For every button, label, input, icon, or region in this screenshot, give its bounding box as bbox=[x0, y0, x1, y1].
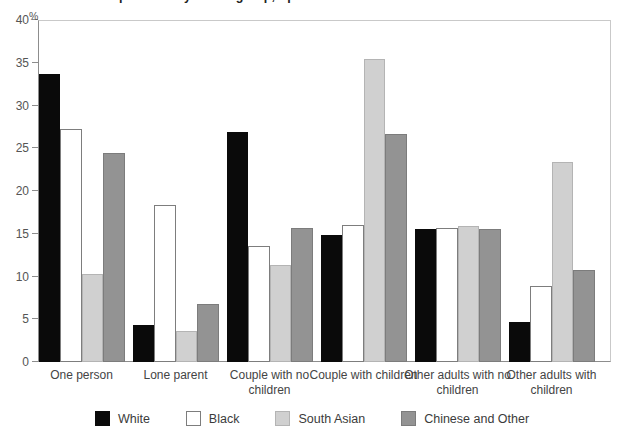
y-axis-tick: 5 bbox=[0, 312, 38, 326]
y-axis-tick-label: 10 bbox=[16, 270, 29, 284]
bar bbox=[197, 304, 219, 362]
y-axis-tick: 0 bbox=[0, 355, 38, 369]
legend-item: Chinese and Other bbox=[401, 411, 529, 426]
bar bbox=[103, 153, 125, 362]
y-axis-tick-label: 20 bbox=[16, 184, 29, 198]
legend-item: South Asian bbox=[275, 411, 365, 426]
legend-item: Black bbox=[186, 411, 240, 426]
legend-label: Chinese and Other bbox=[424, 412, 529, 426]
y-axis-tick-label: 25 bbox=[16, 141, 29, 155]
bar bbox=[60, 129, 82, 362]
legend-label: South Asian bbox=[298, 412, 365, 426]
bars-layer bbox=[38, 20, 611, 362]
legend-swatch-icon bbox=[401, 411, 416, 426]
y-axis-tick-label: 15 bbox=[16, 227, 29, 241]
bar bbox=[176, 331, 198, 362]
y-axis-tick-label: 30 bbox=[16, 99, 29, 113]
bar bbox=[133, 325, 155, 362]
bar bbox=[509, 322, 531, 362]
legend-label: White bbox=[118, 412, 150, 426]
bar bbox=[82, 274, 104, 362]
y-axis-tick: 15 bbox=[0, 227, 38, 241]
bar bbox=[39, 74, 61, 362]
bar bbox=[552, 162, 574, 362]
y-axis-tick: 20 bbox=[0, 184, 38, 198]
y-axis-tick-label: 5 bbox=[22, 312, 29, 326]
y-axis-tick-label: 40 bbox=[16, 13, 29, 27]
y-axis-tick: 35 bbox=[0, 56, 38, 70]
bar bbox=[364, 59, 386, 362]
bar bbox=[154, 205, 176, 362]
bar bbox=[479, 229, 501, 362]
y-axis-tick-label: 35 bbox=[16, 56, 29, 70]
x-axis-group-label: Other adults with children bbox=[492, 368, 612, 397]
legend-swatch-icon bbox=[275, 411, 290, 426]
bar bbox=[291, 228, 313, 362]
legend-swatch-icon bbox=[186, 411, 201, 426]
bar bbox=[415, 229, 437, 362]
legend-item: White bbox=[95, 411, 150, 426]
chart-legend: WhiteBlackSouth AsianChinese and Other bbox=[0, 411, 624, 426]
bar bbox=[458, 226, 480, 362]
bar-chart: Household composition: by ethnic group, … bbox=[0, 0, 624, 443]
bar bbox=[227, 132, 249, 362]
bar bbox=[342, 225, 364, 362]
bar bbox=[530, 286, 552, 362]
y-axis-tick: 30 bbox=[0, 99, 38, 113]
chart-title: Household composition: by ethnic group, … bbox=[24, 0, 339, 3]
bar bbox=[270, 265, 292, 362]
bar bbox=[385, 134, 407, 362]
y-axis-unit-label: % bbox=[29, 10, 38, 22]
legend-swatch-icon bbox=[95, 411, 110, 426]
bar bbox=[248, 246, 270, 362]
legend-label: Black bbox=[209, 412, 240, 426]
y-axis-tick: 10 bbox=[0, 270, 38, 284]
bar bbox=[321, 235, 343, 362]
bar bbox=[436, 228, 458, 362]
bar bbox=[573, 270, 595, 362]
y-axis-tick-label: 0 bbox=[22, 355, 29, 369]
y-axis-tick: 25 bbox=[0, 141, 38, 155]
